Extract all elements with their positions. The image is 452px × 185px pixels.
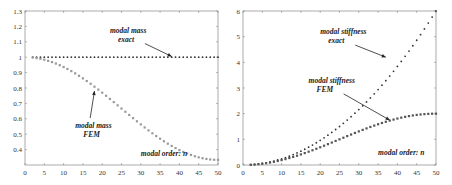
x-tick-label: 20 — [317, 169, 325, 177]
svg-text:modal mass: modal mass — [75, 121, 112, 130]
x-tick-label: 0 — [23, 169, 27, 177]
x-tick-label: 40 — [394, 169, 402, 177]
x-tick-label: 30 — [355, 169, 363, 177]
svg-text:FEM: FEM — [83, 130, 100, 139]
svg-text:FEM: FEM — [317, 85, 334, 94]
y-tick-label: 3 — [237, 85, 241, 93]
x-tick-label: 10 — [278, 169, 286, 177]
x-tick-label: 15 — [297, 169, 305, 177]
y-tick-label: 2 — [237, 110, 241, 118]
x-tick-label: 45 — [195, 169, 203, 177]
chart-panel-2: 051015202530354045500123456modal stiffne… — [237, 8, 441, 178]
x-tick-label: 35 — [157, 169, 165, 177]
x-tick-label: 40 — [176, 169, 184, 177]
x-tick-label: 5 — [43, 169, 47, 177]
annotation: modal order: n — [141, 149, 187, 158]
x-tick-label: 45 — [413, 169, 421, 177]
y-tick-label: 0.6 — [13, 115, 22, 123]
x-tick-label: 30 — [137, 169, 145, 177]
y-tick-label: 1.3 — [13, 8, 22, 16]
annotation: modal order: n — [378, 148, 424, 157]
series-modal-mass-FEM — [32, 57, 219, 161]
y-tick-label: 0.4 — [13, 146, 22, 154]
series-modal-mass-exact — [32, 56, 219, 58]
y-tick-label: 0.7 — [13, 100, 22, 108]
y-tick-label: 5 — [237, 33, 241, 41]
svg-text:modal order: n: modal order: n — [141, 149, 187, 158]
y-tick-label: 0 — [237, 162, 241, 170]
y-tick-label: 1.2 — [13, 23, 22, 31]
x-tick-label: 35 — [375, 169, 383, 177]
annotation: modal massexact — [110, 26, 172, 57]
y-tick-label: 0.9 — [13, 69, 22, 77]
x-tick-label: 25 — [336, 169, 344, 177]
y-tick-label: 1 — [237, 136, 241, 144]
chart-panel-1: 051015202530354045500.40.50.60.70.80.911… — [13, 8, 222, 178]
y-tick-label: 1.1 — [13, 38, 22, 46]
y-tick-label: 1 — [19, 54, 23, 62]
annotation: modal massFEM — [75, 91, 112, 139]
x-tick-label: 15 — [79, 169, 87, 177]
series-modal-stiffness-FEM — [250, 113, 437, 166]
svg-text:modal order: n: modal order: n — [378, 148, 424, 157]
x-tick-label: 20 — [99, 169, 107, 177]
svg-text:modal stiffness: modal stiffness — [320, 27, 366, 36]
chart-canvas: 051015202530354045500.40.50.60.70.80.911… — [0, 0, 452, 185]
x-tick-label: 10 — [60, 169, 68, 177]
y-tick-label: 0.5 — [13, 131, 22, 139]
x-tick-label: 25 — [118, 169, 126, 177]
svg-text:modal mass: modal mass — [110, 26, 147, 35]
arrow-icon — [92, 91, 96, 95]
x-tick-label: 50 — [215, 169, 223, 177]
y-tick-label: 0.8 — [13, 85, 22, 93]
svg-text:exact: exact — [328, 36, 345, 45]
y-tick-label: 4 — [237, 59, 241, 67]
svg-text:modal stiffness: modal stiffness — [309, 76, 355, 85]
x-tick-label: 0 — [241, 169, 245, 177]
annotation: modal stiffnessFEM — [309, 76, 390, 120]
y-tick-label: 6 — [237, 8, 241, 16]
annotation: modal stiffnessexact — [320, 27, 386, 57]
svg-text:exact: exact — [118, 35, 135, 44]
x-tick-label: 5 — [261, 169, 265, 177]
x-tick-label: 50 — [433, 169, 441, 177]
